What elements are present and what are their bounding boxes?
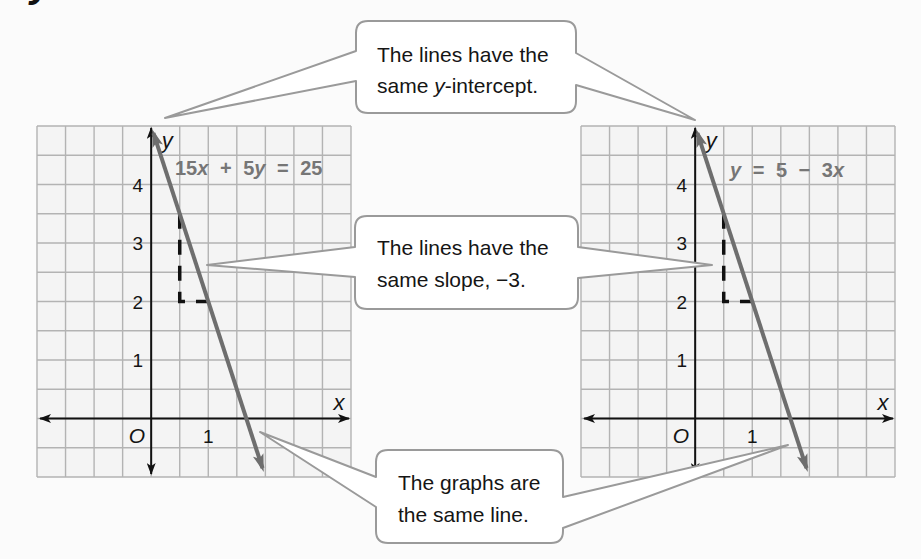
origin-label: O (129, 424, 145, 447)
text-segment: The lines have the (377, 43, 549, 66)
y-tick-label: 2 (133, 292, 144, 313)
x-tick-label: 1 (747, 426, 758, 447)
x-axis-label: x (877, 390, 890, 415)
text-segment: = 5 − 3 (741, 159, 833, 181)
graph-slope-intercept-form: 12341Oxyy = 5 − 3x (581, 126, 895, 477)
italic-variable: y (253, 157, 266, 179)
text-segment: the same line. (398, 503, 529, 526)
graph-standard-form: 12341Oxy15x + 5y = 25 (37, 126, 351, 477)
callout-text-line: same y-intercept. (377, 74, 538, 97)
y-tick-label: 4 (677, 175, 688, 196)
callout-text-line: the same line. (398, 503, 529, 526)
equation-label: 15x + 5y = 25 (175, 157, 322, 179)
callout-text-line: The graphs are (398, 471, 540, 494)
y-tick-label: 3 (677, 233, 688, 254)
y-tick-label: 1 (133, 350, 144, 371)
y-axis-label: y (704, 128, 719, 153)
equation-label: y = 5 − 3x (729, 159, 845, 181)
italic-variable: y (729, 159, 742, 181)
figure-canvas: y 12341Oxy15x + 5y = 2512341Oxyy = 5 − 3… (0, 0, 921, 559)
y-tick-label: 3 (133, 233, 144, 254)
text-segment: + 5 (208, 157, 254, 179)
y-tick-label: 1 (677, 350, 688, 371)
callout-text-line: The lines have the (377, 43, 549, 66)
italic-variable: x (196, 157, 209, 179)
text-segment: The lines have the (377, 236, 549, 259)
text-segment: same slope, −3. (377, 268, 526, 291)
y-tick-label: 2 (677, 292, 688, 313)
text-segment: same (377, 74, 434, 97)
text-segment: The graphs are (398, 471, 540, 494)
y-tick-label: 4 (133, 175, 144, 196)
figure: y 12341Oxy15x + 5y = 2512341Oxyy = 5 − 3… (0, 0, 921, 559)
italic-variable: x (832, 159, 845, 181)
x-tick-label: 1 (203, 426, 214, 447)
x-axis-label: x (333, 390, 346, 415)
callout-text-line: The lines have the (377, 236, 549, 259)
heading-fragment: y (28, 0, 54, 5)
callout-text-line: same slope, −3. (377, 268, 526, 291)
text-segment: -intercept. (445, 74, 538, 97)
origin-label: O (673, 424, 689, 447)
text-segment: 15 (175, 157, 197, 179)
text-segment: = 25 (265, 157, 322, 179)
y-axis-label: y (160, 128, 175, 153)
